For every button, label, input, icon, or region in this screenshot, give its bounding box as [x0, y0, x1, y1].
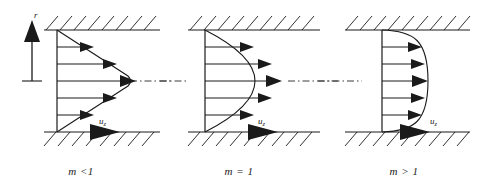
velocity-vector-wall [400, 124, 430, 140]
wall-top [345, 16, 470, 30]
velocity-vector [205, 110, 254, 120]
velocity-label: uz [258, 116, 266, 127]
panel-m-lt-1: r uz m <1 [22, 10, 172, 177]
wall-top [44, 16, 160, 30]
velocity-vector [57, 75, 136, 87]
panel-caption: m > 1 [390, 165, 419, 177]
panel-m-gt-1: uz m > 1 [318, 16, 470, 177]
velocity-vector [382, 110, 422, 120]
velocity-vector [382, 42, 422, 52]
velocity-profile-figure: r uz m <1 [0, 0, 492, 190]
panel-caption: m = 1 [225, 165, 254, 177]
velocity-vector [382, 75, 428, 87]
velocity-label: uz [99, 116, 107, 127]
radial-axis: r [22, 10, 42, 81]
panel-caption: m <1 [68, 165, 94, 177]
wall-top [188, 16, 320, 30]
velocity-vectors [382, 42, 430, 140]
radial-axis-label: r [34, 10, 38, 20]
wall-top-hatching [346, 16, 470, 30]
velocity-vectors [57, 42, 136, 140]
velocity-vector [57, 93, 117, 103]
velocity-vector [382, 59, 425, 69]
panel-m-eq-1: uz m = 1 [160, 16, 338, 177]
wall-top-hatching [190, 16, 314, 30]
velocity-vector [382, 93, 425, 103]
velocity-label: uz [430, 116, 438, 127]
velocity-vector [205, 59, 272, 69]
velocity-vector [205, 42, 254, 52]
velocity-vector [205, 75, 282, 87]
velocity-profiles-diagram: r uz m <1 [0, 0, 492, 190]
velocity-vector [57, 59, 117, 69]
wall-top-hatching [46, 16, 156, 30]
velocity-vector [205, 93, 272, 103]
